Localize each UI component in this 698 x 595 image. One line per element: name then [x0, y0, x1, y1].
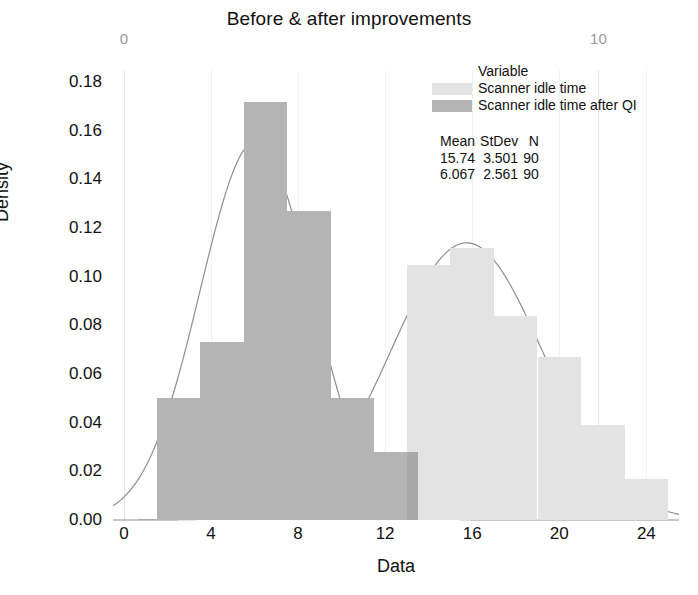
histogram-bar-overlap	[407, 452, 418, 520]
stats-column-header: N	[523, 133, 539, 150]
stats-table: MeanStDevN15.743.501906.0672.56190	[440, 133, 539, 182]
stats-cell: 90	[523, 150, 539, 166]
stats-cell: 15.74	[440, 150, 480, 166]
legend-item[interactable]: Scanner idle time after QI	[432, 97, 632, 114]
y-axis-tick-label: 0.06	[44, 364, 102, 384]
histogram-bar	[538, 357, 582, 520]
histogram-bar	[287, 211, 331, 520]
chart-title: Before & after improvements	[0, 8, 698, 30]
stats-column-header: StDev	[480, 133, 523, 150]
x-axis-tick-label: 20	[539, 524, 579, 544]
x-axis-tick-label: 12	[365, 524, 405, 544]
secondary-top-axis: 010	[113, 30, 679, 52]
histogram-bar	[157, 398, 201, 520]
legend-swatch	[432, 100, 472, 112]
histogram-bar	[625, 479, 669, 520]
x-axis-tick-label: 24	[626, 524, 666, 544]
histogram-bar	[494, 316, 538, 520]
plot-area	[113, 70, 679, 520]
y-axis-tick-label: 0.08	[44, 315, 102, 335]
y-axis-tick-label: 0.14	[44, 169, 102, 189]
y-axis-tick-label: 0.04	[44, 413, 102, 433]
legend-swatch	[432, 83, 472, 95]
histogram-bar	[200, 342, 244, 520]
x-axis-tick-label: 4	[191, 524, 231, 544]
y-axis-tick-label: 0.00	[44, 510, 102, 530]
legend: Variable Scanner idle timeScanner idle t…	[432, 63, 632, 114]
secondary-axis-tick-label: 10	[578, 30, 618, 47]
stats-cell: 2.561	[480, 166, 523, 182]
y-axis-tick-label: 0.18	[44, 72, 102, 92]
y-axis-tick-label: 0.16	[44, 121, 102, 141]
stats-cell: 90	[523, 166, 539, 182]
legend-item-label: Scanner idle time after QI	[478, 97, 637, 114]
y-axis-title: Density	[0, 162, 13, 222]
histogram-bar	[450, 248, 494, 520]
stats-cell: 3.501	[480, 150, 523, 166]
secondary-axis-tick-label: 0	[104, 30, 144, 47]
histogram-bar	[331, 398, 375, 520]
stats-cell: 6.067	[440, 166, 480, 182]
chart-canvas: Before & after improvements 010 0.000.02…	[0, 0, 698, 595]
stats-row: 6.0672.56190	[440, 166, 539, 182]
x-axis: 04812162024	[113, 524, 679, 554]
legend-item-label: Scanner idle time	[478, 80, 586, 97]
x-axis-tick-label: 0	[104, 524, 144, 544]
y-axis-tick-label: 0.02	[44, 461, 102, 481]
legend-title: Variable	[478, 63, 632, 80]
x-axis-tick-label: 16	[452, 524, 492, 544]
x-axis-tick-label: 8	[278, 524, 318, 544]
stats-header-row: MeanStDevN	[440, 133, 539, 150]
y-axis-tick-label: 0.12	[44, 218, 102, 238]
y-axis-tick-label: 0.10	[44, 267, 102, 287]
legend-item[interactable]: Scanner idle time	[432, 80, 632, 97]
y-axis: 0.000.020.040.060.080.100.120.140.160.18	[40, 70, 102, 520]
x-axis-title: Data	[113, 556, 679, 577]
histogram-bar	[581, 425, 625, 520]
stats-column-header: Mean	[440, 133, 480, 150]
histogram-bar	[244, 102, 288, 520]
stats-row: 15.743.50190	[440, 150, 539, 166]
